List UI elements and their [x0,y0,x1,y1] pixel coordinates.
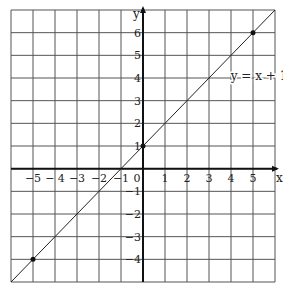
y-tick-label: −3 [125,231,141,244]
x-tick-label: 0 [134,172,141,185]
y-tick-label: 6 [134,27,141,40]
y-tick-label: 2 [134,117,141,130]
y-tick-label: −2 [125,208,141,221]
x-tick-label: −5 [25,172,41,185]
y-tick-label: 4 [134,72,141,85]
y-tick-label: −1 [125,185,141,198]
x-tick-label: 3 [206,172,213,185]
y-tick-label: −4 [125,253,141,266]
x-tick-label: − 4 [45,172,65,185]
data-point [31,257,36,262]
x-axis-label: x [276,171,283,185]
x-tick-label: −2 [91,172,107,185]
x-tick-label: 1 [162,172,169,185]
x-tick-label: −1 [113,172,129,185]
x-tick-label: 4 [228,172,235,185]
y-tick-label: 3 [134,95,141,108]
x-tick-label: 2 [184,172,191,185]
x-tick-label: −3 [69,172,85,185]
y-tick-label: 5 [134,49,141,62]
y-axis-label: y [132,7,140,21]
equation-label: y = x + 1 [230,69,283,83]
data-point [251,30,256,35]
x-tick-label: 5 [250,172,257,185]
coordinate-plane: xy−5− 4−3−2−1012345−4−3−2−1123456y = x +… [0,0,283,296]
data-point [141,144,146,149]
